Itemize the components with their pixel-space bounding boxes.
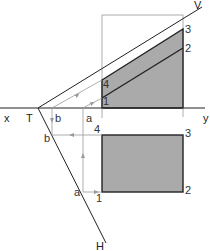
projection-diagram: x y T V H 3 2 4 1 3 2 4 1 b a b a	[0, 0, 210, 251]
horizontal-point-1-label: 1	[96, 192, 102, 204]
arrow-a-to-1	[91, 103, 93, 104]
vertical-point-4-label: 4	[103, 78, 109, 90]
horizontal-point-3-label: 3	[185, 127, 191, 139]
h-trace-point-b-label: b	[44, 132, 50, 144]
axis-point-a-label: a	[86, 112, 93, 124]
diagram-canvas: x y T V H 3 2 4 1 3 2 4 1 b a b a	[0, 0, 210, 251]
vertical-point-1-label: 1	[103, 95, 109, 107]
axis-point-b-label: b	[55, 112, 61, 124]
h-trace-label: H	[96, 240, 104, 251]
horizontal-projection-plane	[102, 135, 183, 192]
vertical-point-3-label: 3	[185, 23, 191, 35]
horizontal-point-4-label: 4	[94, 123, 100, 135]
vertical-projection-plane	[102, 29, 183, 108]
x-axis-label: x	[4, 112, 10, 124]
h-trace-point-a-label: a	[74, 186, 81, 198]
trace-point-label: T	[26, 112, 33, 124]
v-trace-label: V	[194, 0, 202, 11]
vertical-point-2-label: 2	[185, 42, 191, 54]
y-axis-label: y	[203, 112, 209, 124]
horizontal-point-2-label: 2	[185, 184, 191, 196]
